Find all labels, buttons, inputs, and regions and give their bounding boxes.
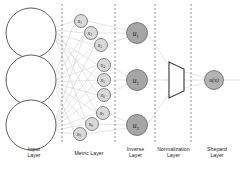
input-1 <box>6 8 56 58</box>
neural-network-diagram: x1x2x3x4x5x6x7x8x9 u1u2u3 u(x) Input Lay… <box>0 0 247 171</box>
caption-metric: Metric Layer <box>63 150 115 156</box>
input-layer-nodes <box>6 8 56 150</box>
shepard-output-label: u(x) <box>209 77 218 84</box>
caption-normalization: Normalization Layer <box>155 146 192 159</box>
inverse-layer-nodes: u1u2u3 <box>127 23 148 136</box>
shepard-layer-node: u(x) <box>205 71 224 90</box>
input-3 <box>6 100 56 150</box>
normalization-trapezoid <box>169 62 184 98</box>
input-2 <box>6 55 56 105</box>
metric-layer-nodes: x1x2x3x4x5x6x7x8x9 <box>74 15 111 141</box>
caption-shepard: Shepard Layer <box>194 146 240 159</box>
caption-inverse: Inverse Layer <box>117 146 154 159</box>
caption-input: Input Layer <box>8 146 60 159</box>
